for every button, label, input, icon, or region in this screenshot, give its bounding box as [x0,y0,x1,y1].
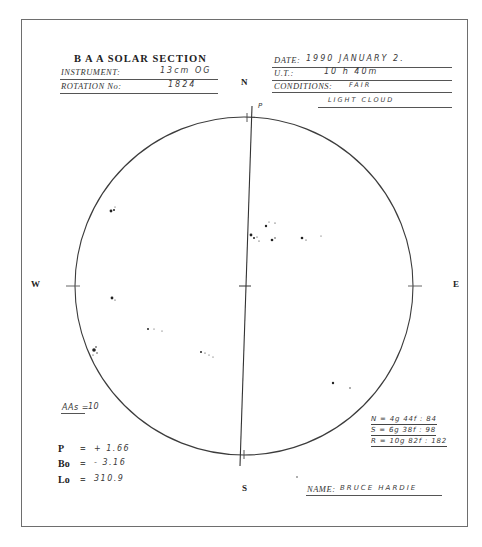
lo-label: Lo [58,474,70,485]
aas-label: AAs = [62,403,89,412]
sunspot-groups [92,207,351,478]
bo-label: Bo [58,458,70,469]
observer-name-label: NAME: [307,484,335,494]
bo-value: - 3.16 [94,458,126,467]
south-count: S = 6g 38f : 98 [371,425,436,436]
north-count: N = 4g 44f : 84 [371,414,437,425]
bo-equals: = [80,458,86,469]
p-equals: = [80,443,86,454]
relative-number: R = 10g 82f : 182 [371,436,447,447]
p-angle-label: P [58,443,64,454]
lo-value: 310.9 [94,474,124,483]
lo-equals: = [80,474,86,485]
aas-value: 10 [88,402,99,411]
aas-underline [61,413,85,414]
p-angle-value: + 1.66 [94,444,130,453]
observer-name-value: BRUCE HARDIE [340,484,417,492]
solar-disk-drawing [0,0,482,547]
sunspot-counts: N = 4g 44f : 84 S = 6g 38f : 98 R = 10g … [371,414,447,447]
observer-name-underline [306,495,442,496]
